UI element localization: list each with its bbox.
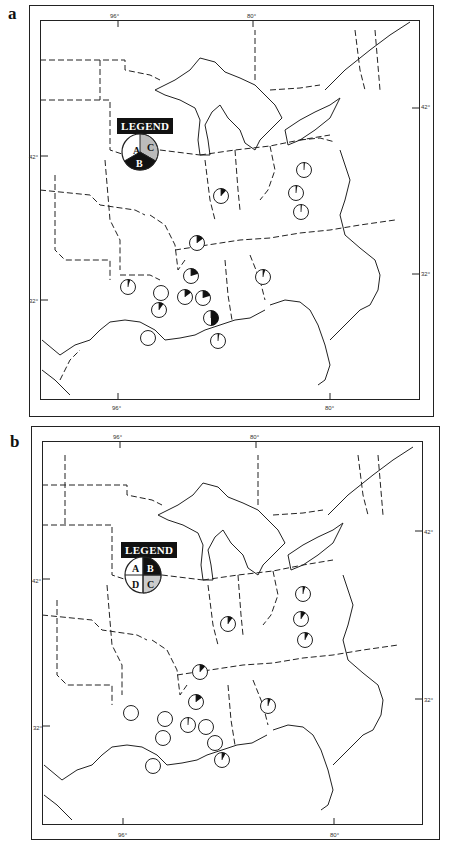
map-a-outlines [40,20,420,400]
site-pie-marker [190,236,205,251]
site-pie-marker [152,303,167,318]
legend-b-pie: A B D C [125,557,161,593]
site-pie-marker [178,290,193,305]
site-pie-marker [294,612,309,627]
map-b-outlines [42,441,423,825]
site-pie-marker [141,331,156,346]
site-pie-marker [158,712,173,727]
site-pie-marker [289,186,304,201]
legend-b-label-b: B [147,563,154,574]
site-pie-marker [199,720,214,735]
site-pie-marker [156,731,171,746]
legend-a-label-b: B [136,158,143,169]
site-pie-marker [221,617,236,632]
legend-b-label-a: A [132,563,140,574]
legend-a-label-a: A [133,145,141,156]
site-pie-marker [181,718,196,733]
pies-a [121,163,312,349]
site-pie-marker [296,587,311,602]
site-pie-marker [256,270,271,285]
site-pie-marker [196,291,211,306]
site-pie-marker [215,753,230,768]
map-drawing: A C B A B D C [0,0,451,844]
site-pie-marker [189,695,204,710]
site-pie-marker [204,311,219,326]
site-pie-marker [146,759,161,774]
legend-a-pie: A C B [122,134,158,170]
legend-a-label-c: C [147,142,154,153]
site-pie-marker [124,706,139,721]
legend-b-label-d: D [132,579,139,590]
site-pie-marker [298,633,313,648]
site-pie-marker [154,286,169,301]
site-pie-marker [184,269,199,284]
pies-b [124,587,313,774]
site-pie-marker [297,163,312,178]
site-pie-marker [294,205,309,220]
site-pie-marker [261,699,276,714]
site-pie-marker [208,736,223,751]
site-pie-marker [193,665,208,680]
legend-b-label-c: C [147,579,154,590]
site-pie-marker [214,189,229,204]
site-pie-marker [121,280,136,295]
site-pie-marker [211,334,226,349]
